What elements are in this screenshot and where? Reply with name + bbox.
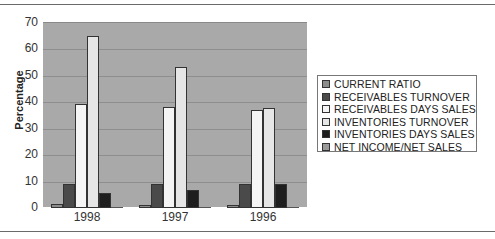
bar-inventories-days-sales-1997 (187, 190, 199, 208)
x-tick-label: 1998 (57, 210, 117, 224)
legend-label: NET INCOME/NET SALES (334, 141, 462, 153)
bar-current-ratio-1997 (139, 205, 151, 208)
y-tick-label: 60 (8, 42, 38, 54)
legend-item: NET INCOME/NET SALES (322, 141, 462, 153)
legend-swatch-icon (322, 105, 330, 113)
plot-area (43, 22, 307, 207)
bar-receivables-days-sales-1997 (163, 107, 175, 208)
bar-inventories-days-sales-1998 (99, 193, 111, 208)
y-tick-label: 20 (8, 148, 38, 160)
y-tick-label: 0 (8, 201, 38, 213)
y-tick-label: 40 (8, 95, 38, 107)
bar-receivables-turnover-1997 (151, 184, 163, 208)
bar-net-income-net-sales-1997 (199, 207, 211, 208)
legend-swatch-icon (322, 93, 330, 101)
gridline (43, 49, 307, 50)
legend-item: RECEIVABLES TURNOVER (322, 91, 470, 103)
legend-label: INVENTORIES TURNOVER (334, 116, 469, 128)
legend-swatch-icon (322, 143, 330, 151)
legend: CURRENT RATIORECEIVABLES TURNOVERRECEIVA… (317, 75, 477, 152)
y-tick-label: 30 (8, 122, 38, 134)
x-tick-label: 1996 (233, 210, 293, 224)
y-tick-label: 50 (8, 69, 38, 81)
bar-net-income-net-sales-1996 (287, 207, 299, 208)
x-tick-label: 1997 (145, 210, 205, 224)
legend-item: RECEIVABLES DAYS SALES (322, 103, 476, 115)
legend-label: RECEIVABLES DAYS SALES (334, 103, 476, 115)
bar-inventories-turnover-1996 (263, 108, 275, 208)
legend-item: INVENTORIES DAYS SALES (322, 128, 475, 140)
top-rule (0, 4, 495, 5)
y-tick-label: 70 (8, 16, 38, 28)
bar-inventories-turnover-1997 (175, 67, 187, 208)
bar-current-ratio-1998 (51, 204, 63, 208)
bar-inventories-turnover-1998 (87, 36, 99, 208)
legend-swatch-icon (322, 118, 330, 126)
bar-current-ratio-1996 (227, 205, 239, 208)
legend-label: CURRENT RATIO (334, 78, 421, 90)
legend-item: CURRENT RATIO (322, 78, 421, 90)
bar-receivables-days-sales-1998 (75, 104, 87, 208)
legend-item: INVENTORIES TURNOVER (322, 116, 469, 128)
bar-receivables-days-sales-1996 (251, 110, 263, 208)
legend-label: RECEIVABLES TURNOVER (334, 91, 470, 103)
legend-swatch-icon (322, 80, 330, 88)
bar-inventories-days-sales-1996 (275, 184, 287, 208)
bar-receivables-turnover-1996 (239, 184, 251, 208)
legend-label: INVENTORIES DAYS SALES (334, 128, 475, 140)
bar-receivables-turnover-1998 (63, 184, 75, 208)
bar-net-income-net-sales-1998 (111, 207, 123, 208)
legend-swatch-icon (322, 130, 330, 138)
y-tick-label: 10 (8, 175, 38, 187)
bottom-rule (0, 231, 495, 232)
